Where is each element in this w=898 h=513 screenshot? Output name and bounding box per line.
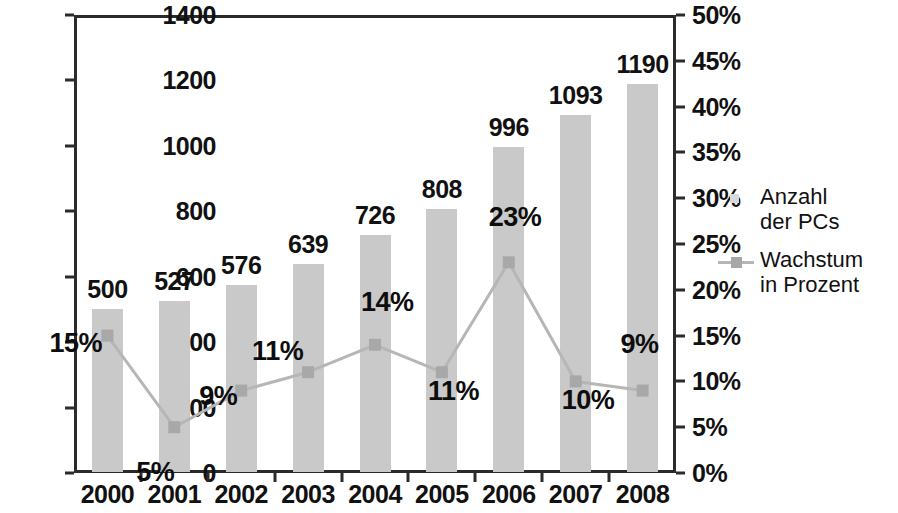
- line-marker: [302, 366, 314, 378]
- legend-item-bars: Anzahl der PCs: [760, 185, 898, 234]
- line-marker: [369, 339, 381, 351]
- legend: Anzahl der PCs Wachstum in Prozent: [760, 185, 898, 312]
- line-value-label: 11%: [428, 376, 479, 407]
- legend-label-wachstum-in-prozent: Wachstum in Prozent: [760, 248, 898, 297]
- line-value-label: 23%: [489, 202, 542, 233]
- line-value-label: 5%: [136, 457, 174, 488]
- legend-item-line: Wachstum in Prozent: [760, 248, 898, 297]
- line-marker: [503, 256, 515, 268]
- line-swatch-icon: [718, 261, 754, 264]
- line-value-label: 14%: [361, 287, 414, 318]
- line-value-label: 15%: [49, 328, 102, 359]
- line-value-label: 10%: [562, 385, 615, 416]
- line-value-label: 11%: [252, 336, 303, 367]
- bar-swatch-icon: [730, 194, 739, 203]
- chart-container: 0200400600800100012001400 0%5%10%15%20%2…: [0, 0, 898, 513]
- line-value-label: 9%: [621, 329, 659, 360]
- line-marker: [168, 421, 180, 433]
- legend-label-anzahl-der-pcs: Anzahl der PCs: [760, 185, 898, 234]
- line-value-label: 9%: [199, 381, 237, 412]
- line-marker: [637, 385, 649, 397]
- line-marker: [101, 330, 113, 342]
